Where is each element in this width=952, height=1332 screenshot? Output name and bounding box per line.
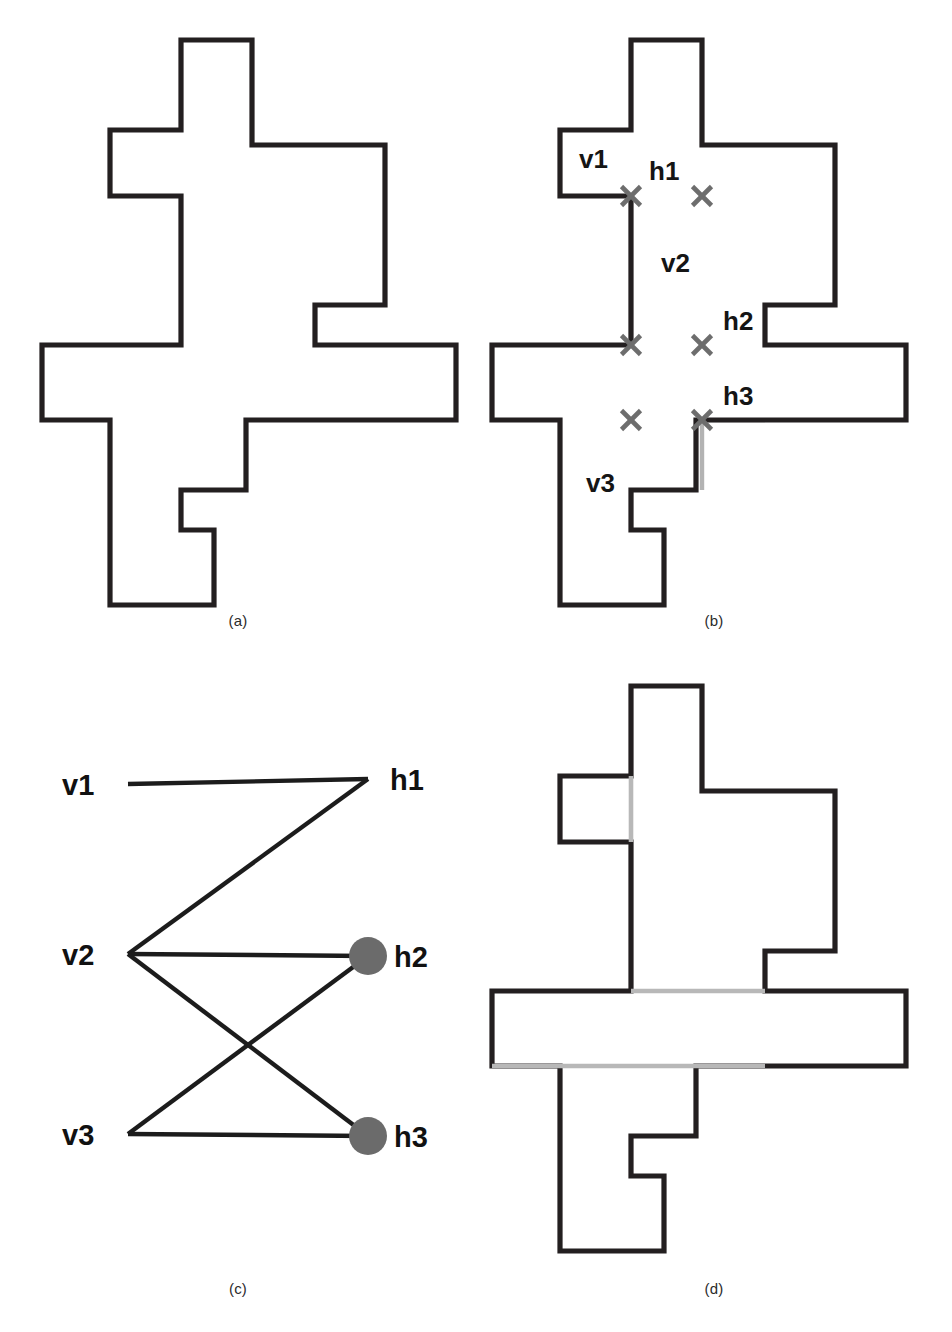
graph-label-v2: v2: [62, 939, 94, 971]
panel-a-canvas: [0, 0, 476, 640]
panel-d-caption: (d): [476, 1280, 952, 1297]
panel-c: v1 v2 v3 h1 h2 h3 (c): [0, 666, 476, 1332]
graph-label-h1: h1: [390, 764, 424, 796]
chord-label-v1: v1: [579, 144, 608, 174]
polygon-b-outline: [492, 40, 906, 605]
chord-label-h3: h3: [723, 381, 753, 411]
polygon-d-outline: [492, 686, 906, 1251]
panel-c-caption: (c): [0, 1280, 476, 1297]
graph-label-h2: h2: [394, 941, 428, 973]
chord-label-v3: v3: [586, 468, 615, 498]
panel-c-canvas: v1 v2 v3 h1 h2 h3: [0, 666, 476, 1306]
chord-label-h1: h1: [649, 156, 679, 186]
graph-node-group: [349, 937, 387, 1155]
footer-caption: [0, 1312, 952, 1332]
panel-b-canvas: v1 h1 v2 h2 h3 v3: [476, 0, 952, 640]
panel-a-caption: (a): [0, 612, 476, 629]
chord-label-v2: v2: [661, 248, 690, 278]
panel-d: (d): [476, 666, 952, 1332]
graph-node-h1: [349, 937, 387, 975]
figure-grid: (a): [0, 0, 952, 1332]
polygon-a-outline: [42, 40, 456, 605]
panel-a: (a): [0, 0, 476, 666]
graph-edge-group: [128, 779, 368, 1136]
panel-b: v1 h1 v2 h2 h3 v3 (b): [476, 0, 952, 666]
graph-label-v3: v3: [62, 1119, 94, 1151]
graph-label-h3: h3: [394, 1121, 428, 1153]
chord-label-h2: h2: [723, 306, 753, 336]
graph-node-h2: [349, 1117, 387, 1155]
graph-label-v1: v1: [62, 769, 94, 801]
graph-edge: [128, 1134, 368, 1136]
panel-b-caption: (b): [476, 612, 952, 629]
panel-d-canvas: [476, 666, 952, 1306]
graph-edge: [128, 779, 368, 784]
graph-edge: [128, 779, 368, 954]
graph-edge: [128, 954, 368, 956]
